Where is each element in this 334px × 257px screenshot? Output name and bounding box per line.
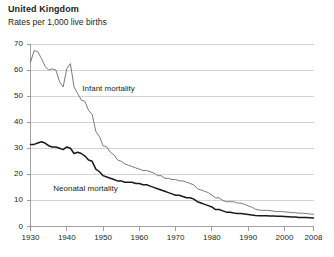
y-axis-tick-10: 10: [3, 195, 23, 204]
x-axis-tick-1990: 1990: [228, 233, 268, 242]
y-axis-tick-0: 0: [3, 222, 23, 231]
x-axis-tick-1940: 1940: [47, 233, 87, 242]
y-axis-tick-30: 30: [3, 143, 23, 152]
series-label-infant-mortality: Infant mortality: [82, 84, 134, 93]
x-axis-tick-2008: 2008: [294, 233, 334, 242]
x-axis-tick-1960: 1960: [119, 233, 159, 242]
y-axis-tick-50: 50: [3, 91, 23, 100]
series-label-neonatal-mortality: Neonatal mortality: [53, 184, 117, 193]
x-axis-tick-1930: 1930: [11, 233, 51, 242]
chart-subtitle: Rates per 1,000 live births: [8, 17, 107, 27]
line-chart-plot: [0, 0, 334, 257]
y-axis-tick-60: 60: [3, 65, 23, 74]
x-axis-tick-1980: 1980: [192, 233, 232, 242]
y-axis-tick-70: 70: [3, 39, 23, 48]
y-axis-tick-20: 20: [3, 169, 23, 178]
x-axis-tick-1970: 1970: [156, 233, 196, 242]
x-axis-tick-1950: 1950: [83, 233, 123, 242]
page-title: United Kingdom: [8, 4, 79, 14]
chart-figure: United Kingdom Rates per 1,000 live birt…: [0, 0, 334, 257]
y-axis-tick-40: 40: [3, 117, 23, 126]
